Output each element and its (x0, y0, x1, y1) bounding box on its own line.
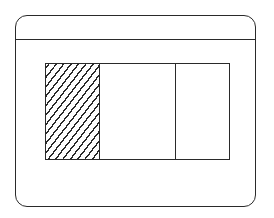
hatched-pane-left (46, 64, 100, 159)
pane-right (176, 64, 229, 159)
content-area (45, 63, 230, 160)
pane-middle (100, 64, 176, 159)
title-bar (16, 16, 255, 40)
